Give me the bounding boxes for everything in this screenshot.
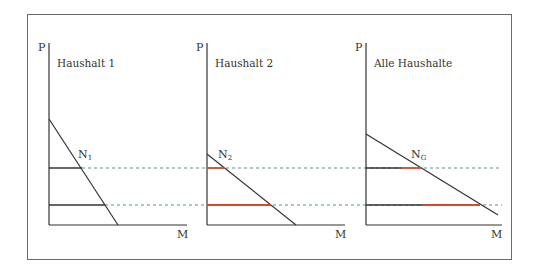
curve-label: N2 (218, 148, 232, 162)
curve-label: NG (411, 148, 427, 162)
curve-label: N1 (78, 148, 92, 162)
y-axis-label: P (38, 41, 46, 54)
panel-all-households: P M Alle Haushalte NG (355, 41, 502, 241)
x-axis-label: M (335, 228, 346, 241)
panel-household-2: P M Haushalt 2 N2 (196, 41, 346, 241)
x-axis-label: M (177, 228, 188, 241)
demand-diagram: P M Haushalt 1 N1 P M Haushalt 2 N2 P M … (0, 0, 540, 274)
demand-curve-n1 (49, 119, 118, 225)
y-axis-label: P (196, 41, 204, 54)
x-axis-label: M (491, 228, 502, 241)
demand-curve-ng (366, 134, 498, 215)
panel-title: Haushalt 1 (57, 57, 115, 69)
y-axis-label: P (355, 41, 363, 54)
panel-title: Alle Haushalte (373, 57, 452, 69)
price-guide-lines (82, 168, 502, 205)
panel-household-1: P M Haushalt 1 N1 (38, 41, 188, 241)
panel-title: Haushalt 2 (215, 57, 273, 69)
demand-curve-n2 (207, 154, 296, 225)
